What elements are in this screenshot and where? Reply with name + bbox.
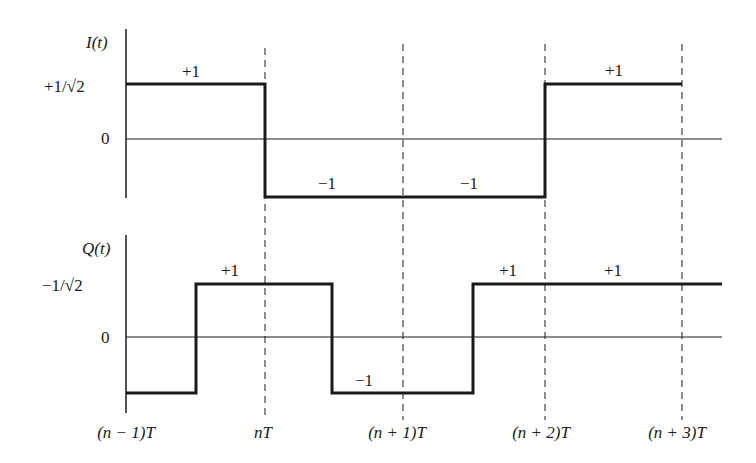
waveform-diagram: I(t) +1/√2 0 +1 −1 −1 +1 Q(t) −1/√2 0 +1… bbox=[0, 0, 756, 463]
i-symbol-label: −1 bbox=[460, 174, 478, 193]
tick-label: (n + 2)T bbox=[512, 423, 571, 442]
q-symbol-label: −1 bbox=[355, 371, 373, 390]
i-axis-label: I(t) bbox=[85, 33, 108, 52]
i-level-label: +1/√2 bbox=[44, 77, 85, 96]
tick-label: (n + 3)T bbox=[648, 423, 707, 442]
q-zero-label: 0 bbox=[101, 328, 110, 347]
q-axis-label: Q(t) bbox=[82, 239, 111, 258]
time-axis-labels: (n − 1)T nT (n + 1)T (n + 2)T (n + 3)T bbox=[97, 423, 707, 442]
q-waveform bbox=[126, 284, 722, 393]
tick-label: nT bbox=[254, 423, 274, 442]
q-level-label: −1/√2 bbox=[42, 276, 83, 295]
i-channel-plot: I(t) +1/√2 0 +1 −1 −1 +1 bbox=[44, 29, 722, 198]
i-zero-label: 0 bbox=[101, 129, 110, 148]
q-symbol-label: +1 bbox=[221, 261, 239, 280]
i-symbol-label: +1 bbox=[182, 62, 200, 81]
tick-label: (n + 1)T bbox=[368, 423, 427, 442]
q-channel-plot: Q(t) −1/√2 0 +1 −1 +1 +1 bbox=[42, 235, 722, 413]
i-symbol-label: −1 bbox=[318, 174, 336, 193]
q-symbol-label: +1 bbox=[604, 261, 622, 280]
i-symbol-label: +1 bbox=[605, 61, 623, 80]
i-waveform bbox=[126, 84, 682, 197]
tick-label: (n − 1)T bbox=[97, 423, 156, 442]
q-symbol-label: +1 bbox=[499, 261, 517, 280]
